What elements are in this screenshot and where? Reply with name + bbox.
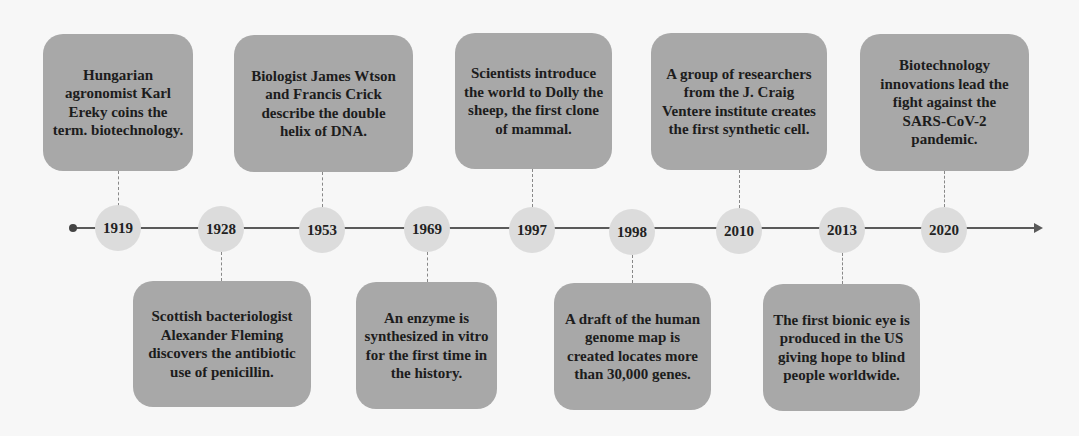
year-label: 1997 (517, 222, 547, 239)
year-label: 2020 (929, 222, 959, 239)
connector-2020 (944, 171, 945, 207)
year-label: 1919 (103, 220, 133, 237)
event-box-2010: A group of researchers from the J. Craig… (651, 33, 827, 170)
event-box-1998: A draft of the human genome map is creat… (554, 283, 711, 410)
connector-1919 (118, 171, 119, 206)
event-text: An enzyme is synthesized in vitro for th… (364, 309, 489, 383)
event-text: Biotechnology innovations lead the fight… (874, 56, 1015, 149)
timeline-start-dot (69, 224, 77, 232)
year-marker-1953: 1953 (299, 207, 345, 253)
event-box-2020: Biotechnology innovations lead the fight… (860, 34, 1029, 171)
year-marker-1997: 1997 (509, 207, 555, 253)
arrow-right-icon (1034, 223, 1043, 233)
biotech-timeline: Hungarian agronomist Karl Ereky coins th… (0, 0, 1079, 436)
year-marker-2013: 2013 (819, 207, 865, 253)
year-marker-1998: 1998 (609, 209, 655, 255)
event-box-1969: An enzyme is synthesized in vitro for th… (356, 282, 497, 409)
event-text: A group of researchers from the J. Craig… (659, 65, 819, 139)
year-label: 1969 (412, 221, 442, 238)
year-marker-1969: 1969 (404, 206, 450, 252)
event-text: Biologist James Wtson and Francis Crick … (246, 67, 401, 141)
year-label: 1953 (307, 222, 337, 239)
event-box-2013: The first bionic eye is produced in the … (763, 284, 920, 411)
connector-1998 (632, 255, 633, 283)
connector-1997 (532, 169, 533, 207)
year-marker-2020: 2020 (921, 207, 967, 253)
event-box-1997: Scientists introduce the world to Dolly … (455, 33, 612, 169)
year-label: 2013 (827, 222, 857, 239)
event-text: A draft of the human genome map is creat… (562, 310, 703, 384)
event-box-1919: Hungarian agronomist Karl Ereky coins th… (43, 34, 193, 171)
year-label: 2010 (724, 223, 754, 240)
event-text: Scottish bacteriologist Alexander Flemin… (141, 307, 303, 381)
year-label: 1998 (617, 224, 647, 241)
year-marker-2010: 2010 (716, 208, 762, 254)
connector-1928 (221, 252, 222, 281)
event-text: Hungarian agronomist Karl Ereky coins th… (51, 66, 185, 140)
year-marker-1919: 1919 (95, 205, 141, 251)
connector-1969 (427, 252, 428, 282)
connector-1953 (322, 172, 323, 207)
connector-2013 (842, 253, 843, 284)
event-text: The first bionic eye is produced in the … (771, 311, 912, 385)
event-box-1953: Biologist James Wtson and Francis Crick … (234, 35, 413, 172)
event-text: Scientists introduce the world to Dolly … (463, 64, 604, 138)
event-box-1928: Scottish bacteriologist Alexander Flemin… (133, 281, 311, 407)
connector-2010 (739, 170, 740, 208)
year-marker-1928: 1928 (198, 206, 244, 252)
year-label: 1928 (206, 221, 236, 238)
